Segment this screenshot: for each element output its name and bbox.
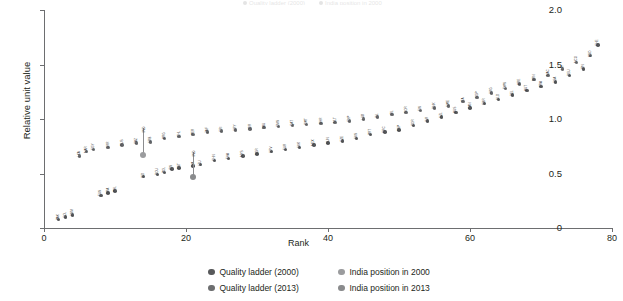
x-tick-mark <box>470 228 471 232</box>
data-point-label: MAR <box>85 146 88 153</box>
clipped-legend-label-2: India position in 2000 <box>325 0 382 5</box>
plot-area: PAKCOLVNMTUNBRAPHLINDROUPOLIDNESTLVALTUC… <box>44 10 612 228</box>
legend-item-label: Quality ladder (2013) <box>220 283 299 293</box>
data-point-label: AUS <box>454 107 457 113</box>
clipped-legend-dot-2 <box>319 1 323 5</box>
data-point-label: TWN <box>504 82 507 89</box>
data-point-label: THA <box>227 153 230 159</box>
y-tick-label: 1.0 <box>522 113 562 124</box>
y-axis-title: Relative unit value <box>21 31 32 171</box>
data-point-label: COL <box>64 212 67 218</box>
data-point-label: PAK <box>57 214 60 220</box>
x-tick-label: 20 <box>171 233 201 243</box>
y-tick-label: 0 <box>522 222 562 233</box>
chart-figure: Quality ladder (2000) India position in … <box>0 0 623 301</box>
data-point-label: UKR <box>106 142 109 149</box>
india-position-marker <box>190 174 196 180</box>
data-point-label: PHL <box>114 186 117 192</box>
x-tick-label: 80 <box>597 233 623 243</box>
data-point-label: JOR <box>248 123 251 129</box>
y-axis-line <box>44 10 45 228</box>
data-point-label: CHL <box>177 131 180 137</box>
data-point-label: PRT <box>369 129 372 135</box>
data-point-label: KWT <box>305 118 308 125</box>
y-tick-label: 0.5 <box>522 168 562 179</box>
data-point-label: CRI <box>220 126 223 131</box>
data-point-label: BEL <box>511 90 514 96</box>
data-point-label: PER <box>192 129 195 135</box>
data-point-label: NLD <box>497 94 500 100</box>
legend-marker-icon <box>338 285 345 292</box>
data-point-label: HRV <box>270 146 273 153</box>
y-tick-mark <box>40 10 44 11</box>
data-point-label: IDN <box>170 165 173 170</box>
data-point-label: ITA <box>461 98 464 103</box>
data-point-label: MLT <box>334 117 337 123</box>
y-tick-label: 2.0 <box>522 4 562 15</box>
y-tick-label: 1.5 <box>522 59 562 70</box>
legend-marker-icon <box>338 269 345 276</box>
legend-item-label: Quality ladder (2000) <box>220 267 299 277</box>
data-point-label: CZE <box>341 135 344 141</box>
data-point-label: TUR <box>284 144 287 150</box>
y-tick-mark <box>40 119 44 120</box>
legend-item[interactable]: Quality ladder (2013) <box>208 283 326 293</box>
data-point-label: ARE <box>518 79 521 85</box>
data-point-label: POL <box>163 167 166 173</box>
data-point-label: NZL <box>440 112 443 118</box>
data-point-label: BGR <box>256 148 259 155</box>
data-point-label: GRC <box>383 126 386 133</box>
legend-marker-icon <box>208 285 215 292</box>
y-tick-mark <box>40 65 44 66</box>
data-point-label: FIN <box>419 106 422 111</box>
data-point-label: USA <box>554 76 557 82</box>
data-point-label: FRA <box>540 81 543 87</box>
data-point-label: SVN <box>355 133 358 139</box>
data-point-label: CHE <box>596 39 599 46</box>
india-position-marker <box>140 152 146 158</box>
data-point-label: SVK <box>298 142 301 148</box>
data-point-label: LUX <box>362 114 365 120</box>
data-point-label: EGY <box>92 144 95 151</box>
india-position-label: IND <box>143 126 146 132</box>
data-point-label: ZAF <box>206 127 209 133</box>
data-point-label: DNK <box>433 102 436 109</box>
clipped-legend-dot-1 <box>243 1 247 5</box>
data-point-label: SWE <box>447 100 450 107</box>
data-point-label: URY <box>234 124 237 131</box>
data-point-label: ISR <box>426 117 429 122</box>
data-point-label: MYS <box>241 150 244 157</box>
data-point-label: IND <box>142 172 145 177</box>
data-point-label: JPN <box>582 64 585 70</box>
data-point-label: CHN <box>213 155 216 162</box>
data-point-label: HUN <box>327 137 330 144</box>
data-point-label: AUT <box>525 85 528 91</box>
data-point-label: NOR <box>405 106 408 113</box>
data-point-label: TUN <box>99 190 102 196</box>
x-tick-mark <box>186 228 187 232</box>
data-point-label: ROU <box>156 169 159 176</box>
legend-item[interactable]: India position in 2000 <box>338 267 430 277</box>
legend-item[interactable]: Quality ladder (2000) <box>208 267 326 277</box>
clipped-legend-label-1: Quality ladder (2000) <box>249 0 305 5</box>
data-point-label: SRB <box>149 136 152 142</box>
x-tick-label: 40 <box>313 233 343 243</box>
data-point-label: DEU <box>568 70 571 77</box>
data-point-label: ISL <box>376 113 379 118</box>
data-point-label: EST <box>177 163 180 169</box>
data-point-label: LTU <box>199 160 202 166</box>
legend-item-label: India position in 2000 <box>350 267 430 277</box>
data-point-label: IRL <box>390 111 393 116</box>
data-point-label: CAN <box>469 102 472 109</box>
data-point-label: LKA <box>78 151 81 157</box>
data-point-label: QAT <box>291 120 294 126</box>
data-point-label: OMN <box>277 120 280 127</box>
data-point-label: ESP <box>398 124 401 130</box>
india-position-label: IND <box>192 150 195 156</box>
data-point-label: BRN <box>532 74 535 81</box>
legend-item[interactable]: India position in 2013 <box>338 283 430 293</box>
x-tick-mark <box>612 228 613 232</box>
data-point-label: KOR <box>412 120 415 127</box>
data-point-label: GBR <box>483 98 486 105</box>
data-point-label: AND <box>589 50 592 57</box>
